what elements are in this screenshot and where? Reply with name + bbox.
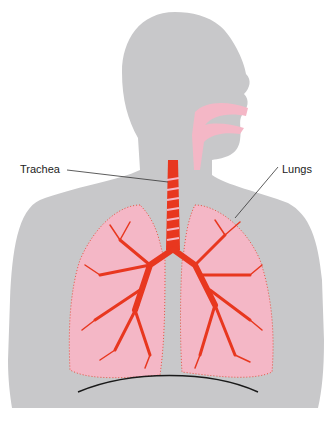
lungs-label: Lungs bbox=[282, 163, 312, 175]
diagram-svg bbox=[0, 0, 334, 422]
body-silhouette bbox=[8, 12, 324, 408]
trachea bbox=[166, 160, 180, 250]
trachea-label: Trachea bbox=[20, 163, 60, 175]
respiratory-diagram: Trachea Lungs bbox=[0, 0, 334, 422]
